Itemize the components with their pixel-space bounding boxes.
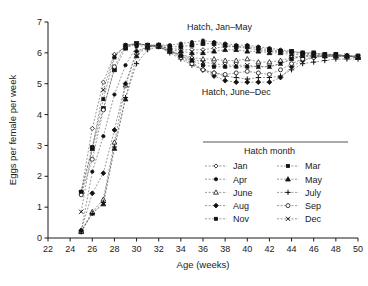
data-point-marker xyxy=(214,178,217,181)
egg-production-chart: 01234567222426283032343638404244464850Ag… xyxy=(0,0,368,286)
x-tick-label: 24 xyxy=(65,244,75,254)
legend-item-label: Nov xyxy=(233,214,250,224)
legend: Hatch monthJanMarAprMayJuneJulyAugSepNov… xyxy=(203,142,348,224)
data-point-marker xyxy=(286,164,289,167)
legend-item-label: July xyxy=(305,188,322,198)
legend-item-jan[interactable]: Jan xyxy=(205,161,248,171)
data-point-marker xyxy=(212,40,215,43)
x-tick-label: 50 xyxy=(353,244,363,254)
data-point-marker xyxy=(124,64,127,67)
y-tick-label: 4 xyxy=(37,110,42,120)
data-point-marker xyxy=(213,65,216,68)
legend-item-dec[interactable]: Dec xyxy=(277,214,322,224)
legend-item-aug[interactable]: Aug xyxy=(205,201,249,211)
x-tick-label: 22 xyxy=(43,244,53,254)
x-tick-label: 46 xyxy=(309,244,319,254)
data-point-marker xyxy=(112,128,117,133)
legend-item-sep[interactable]: Sep xyxy=(277,201,321,211)
data-point-marker xyxy=(223,78,228,83)
data-point-marker xyxy=(223,72,227,76)
y-tick-label: 2 xyxy=(37,171,42,181)
data-point-marker xyxy=(246,44,249,47)
data-point-marker xyxy=(245,57,250,61)
y-tick-label: 5 xyxy=(37,79,42,89)
data-point-marker xyxy=(223,58,228,62)
data-point-marker xyxy=(168,44,171,47)
data-point-marker xyxy=(90,126,94,130)
data-point-marker xyxy=(267,72,271,76)
series-line xyxy=(81,44,358,212)
data-point-marker xyxy=(190,40,193,43)
data-point-marker xyxy=(245,80,250,85)
data-point-marker xyxy=(286,177,291,181)
data-point-marker xyxy=(256,80,261,85)
data-point-marker xyxy=(91,170,94,173)
series-line xyxy=(81,44,358,195)
data-point-marker xyxy=(267,80,272,85)
data-point-marker xyxy=(245,69,249,73)
x-tick-label: 34 xyxy=(176,244,186,254)
data-point-marker xyxy=(212,57,217,61)
legend-item-label: Mar xyxy=(305,161,321,171)
data-point-marker xyxy=(201,39,204,42)
data-point-marker xyxy=(112,65,116,69)
data-point-marker xyxy=(90,191,95,196)
data-point-marker xyxy=(101,80,105,84)
chart-canvas: 01234567222426283032343638404244464850Ag… xyxy=(0,0,368,286)
legend-item-label: Jan xyxy=(233,161,248,171)
data-point-marker xyxy=(256,71,260,75)
legend-title: Hatch month xyxy=(244,146,295,156)
data-point-marker xyxy=(279,68,283,72)
legend-item-may[interactable]: May xyxy=(277,175,323,185)
data-point-marker xyxy=(214,190,219,194)
data-point-marker xyxy=(285,190,290,195)
data-point-marker xyxy=(102,98,105,101)
data-point-marker xyxy=(201,64,204,67)
data-point-marker xyxy=(201,68,205,72)
legend-item-apr[interactable]: Apr xyxy=(205,175,247,185)
data-point-marker xyxy=(268,47,271,50)
x-tick-label: 36 xyxy=(198,244,208,254)
data-point-marker xyxy=(102,135,105,138)
y-tick-label: 0 xyxy=(37,233,42,243)
data-point-marker xyxy=(101,171,106,176)
y-tick-label: 1 xyxy=(37,202,42,212)
x-tick-label: 26 xyxy=(87,244,97,254)
y-tick-label: 3 xyxy=(37,141,42,151)
annotations: Hatch, Jan–MayHatch, June–Dec xyxy=(187,22,271,97)
legend-item-label: June xyxy=(233,188,253,198)
data-point-marker xyxy=(212,71,216,75)
data-point-marker xyxy=(224,42,227,45)
data-point-marker xyxy=(257,45,260,48)
data-point-marker xyxy=(223,47,228,51)
x-tick-label: 32 xyxy=(154,244,164,254)
data-point-marker xyxy=(234,80,239,85)
y-tick-label: 6 xyxy=(37,48,42,58)
x-tick-label: 48 xyxy=(331,244,341,254)
legend-item-nov[interactable]: Nov xyxy=(205,214,250,224)
data-point-marker xyxy=(214,203,219,208)
x-tick-label: 44 xyxy=(287,244,297,254)
legend-item-label: Sep xyxy=(305,201,321,211)
x-tick-label: 38 xyxy=(220,244,230,254)
x-tick-label: 28 xyxy=(109,244,119,254)
data-point-marker xyxy=(286,204,290,208)
y-tick-label: 7 xyxy=(37,17,42,27)
x-tick-label: 30 xyxy=(132,244,142,254)
axes: 01234567222426283032343638404244464850Ag… xyxy=(7,17,363,270)
legend-item-label: Dec xyxy=(305,214,322,224)
data-point-marker xyxy=(80,190,83,193)
data-point-marker xyxy=(179,42,182,45)
x-axis-title: Age (weeks) xyxy=(177,259,230,270)
legend-item-label: Aug xyxy=(233,201,249,211)
legend-item-label: Apr xyxy=(233,175,247,185)
data-point-marker xyxy=(214,217,217,220)
data-point-marker xyxy=(235,44,238,47)
data-point-marker xyxy=(234,71,238,75)
chart-annotation: Hatch, Jan–May xyxy=(187,22,253,32)
legend-item-june[interactable]: June xyxy=(205,188,253,198)
y-axis-title: Eggs per female per week xyxy=(7,75,18,186)
legend-item-mar[interactable]: Mar xyxy=(277,161,321,171)
data-point-marker xyxy=(290,62,294,66)
legend-item-july[interactable]: July xyxy=(277,188,322,198)
